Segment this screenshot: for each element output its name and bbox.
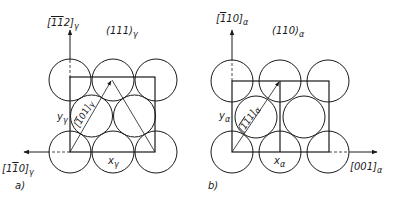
panel-b bbox=[211, 30, 377, 173]
panel-label-b: b) bbox=[208, 180, 218, 191]
plane-label-a: (111)γ bbox=[106, 25, 139, 39]
y-label-b: yα bbox=[218, 110, 231, 124]
y-label-a: yγ bbox=[56, 111, 69, 125]
vertical-axis-label-a: [112]γ bbox=[47, 17, 80, 31]
diagram-canvas: [112]γ (111)γ [110]γ yγ xγ [101]γ a) [11… bbox=[0, 0, 397, 198]
diagonal-label-b: [111]α bbox=[236, 103, 263, 135]
vertical-axis-label-b: [110]α bbox=[216, 13, 249, 27]
horizontal-axis-label-b: [001]α bbox=[350, 161, 383, 175]
x-label-a: xγ bbox=[107, 155, 120, 169]
panel-a bbox=[24, 30, 177, 173]
plane-label-b: (110)α bbox=[272, 25, 305, 39]
panel-label-a: a) bbox=[15, 180, 25, 191]
triangle-a bbox=[112, 80, 155, 152]
horizontal-axis-label-a: [110]γ bbox=[2, 163, 35, 177]
x-label-b: xα bbox=[273, 155, 286, 169]
